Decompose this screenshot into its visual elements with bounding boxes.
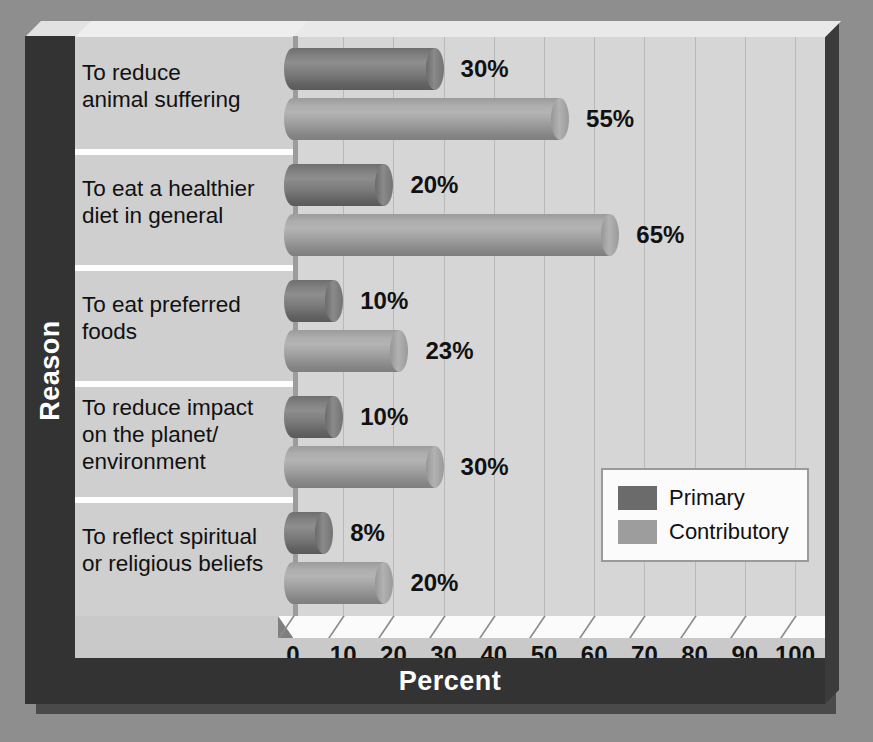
legend-label-primary: Primary	[669, 485, 745, 511]
bar-value-label: 10%	[360, 287, 408, 315]
category-column-top-bevel	[75, 21, 309, 37]
bar-contributory	[293, 446, 444, 488]
category-label-line: To reflect spiritual	[82, 523, 282, 550]
category-label-line: on the planet/	[82, 421, 282, 448]
bar-end-cap	[315, 512, 333, 554]
category-label: To eat a healthierdiet in general	[82, 175, 282, 229]
category-separator	[75, 149, 293, 155]
bar-body	[293, 330, 399, 372]
bar-end-cap	[375, 562, 393, 604]
legend-swatch-contributory-icon	[618, 520, 657, 544]
bar-primary	[293, 48, 444, 90]
bar-left-cap	[284, 396, 302, 438]
bar-contributory	[293, 214, 619, 256]
chart-figure: Reason To reduceanimal sufferingTo eat a…	[0, 0, 873, 742]
bar-primary	[293, 396, 343, 438]
category-label-line: animal suffering	[82, 86, 282, 113]
bar-value-label: 20%	[410, 569, 458, 597]
category-label-line: To eat a healthier	[82, 175, 282, 202]
bar-body	[293, 446, 435, 488]
bar-left-cap	[284, 48, 302, 90]
bar-primary	[293, 280, 343, 322]
legend-label-contributory: Contributory	[669, 519, 789, 545]
bar-left-cap	[284, 562, 302, 604]
bar-value-label: 8%	[350, 519, 385, 547]
category-label-line: foods	[82, 318, 282, 345]
chart-right-bevel	[825, 22, 839, 704]
bar-end-cap	[390, 330, 408, 372]
category-label: To reduce impacton the planet/environmen…	[82, 394, 282, 475]
bar-left-cap	[284, 98, 302, 140]
bar-body	[293, 98, 560, 140]
bar-contributory	[293, 330, 408, 372]
bar-left-cap	[284, 164, 302, 206]
category-label-line: To eat preferred	[82, 291, 282, 318]
bar-left-cap	[284, 512, 302, 554]
bar-end-cap	[325, 280, 343, 322]
bar-body	[293, 562, 384, 604]
bar-primary	[293, 164, 393, 206]
legend-item-primary: Primary	[618, 481, 807, 515]
bar-body	[293, 214, 610, 256]
category-separator	[75, 265, 293, 271]
category-separator	[75, 381, 293, 387]
bar-end-cap	[551, 98, 569, 140]
bar-primary	[293, 512, 333, 554]
plot-top-bevel	[293, 21, 841, 37]
category-label-line: environment	[82, 448, 282, 475]
bar-end-cap	[426, 446, 444, 488]
category-label: To reflect spiritualor religious beliefs	[82, 523, 282, 577]
bar-end-cap	[325, 396, 343, 438]
bar-left-cap	[284, 446, 302, 488]
category-label: To eat preferredfoods	[82, 291, 282, 345]
bar-value-label: 65%	[636, 221, 684, 249]
bar-left-cap	[284, 214, 302, 256]
bar-left-cap	[284, 280, 302, 322]
category-label: To reduceanimal suffering	[82, 59, 282, 113]
category-label-line: or religious beliefs	[82, 550, 282, 577]
bar-end-cap	[375, 164, 393, 206]
bar-value-label: 20%	[410, 171, 458, 199]
category-label-line: To reduce	[82, 59, 282, 86]
bar-value-label: 10%	[360, 403, 408, 431]
x-axis-title: Percent	[75, 658, 825, 704]
bar-left-cap	[284, 330, 302, 372]
bar-value-label: 30%	[461, 55, 509, 83]
legend-swatch-primary-icon	[618, 486, 657, 510]
bar-body	[293, 48, 435, 90]
y-axis-title: Reason	[25, 36, 75, 704]
x-axis-title-text: Percent	[399, 666, 502, 697]
y-axis-title-text: Reason	[35, 320, 66, 421]
bar-value-label: 55%	[586, 105, 634, 133]
category-label-line: To reduce impact	[82, 394, 282, 421]
bar-end-cap	[426, 48, 444, 90]
bar-end-cap	[601, 214, 619, 256]
legend-item-contributory: Contributory	[618, 515, 807, 549]
bar-contributory	[293, 562, 393, 604]
chart-legend: Primary Contributory	[601, 468, 809, 562]
bar-value-label: 30%	[461, 453, 509, 481]
bar-value-label: 23%	[425, 337, 473, 365]
category-separator	[75, 497, 293, 503]
bar-contributory	[293, 98, 569, 140]
category-label-line: diet in general	[82, 202, 282, 229]
bar-body	[293, 164, 384, 206]
